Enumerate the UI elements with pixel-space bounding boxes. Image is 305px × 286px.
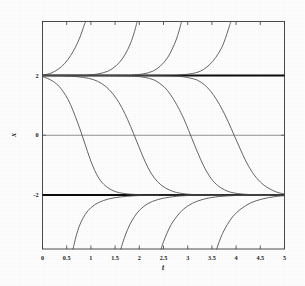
upper-branch-1 xyxy=(45,22,86,75)
upper-branch-4 xyxy=(178,22,231,76)
x-tick-label: 4.5 xyxy=(256,254,264,261)
x-tick-label: 1.5 xyxy=(111,254,119,261)
x-tick-label: 3 xyxy=(186,254,189,261)
lower-branch-3 xyxy=(161,195,270,249)
upper-branch-3 xyxy=(132,22,182,76)
y-axis-title: x xyxy=(9,133,18,138)
x-tick-label: 4 xyxy=(235,254,238,261)
x-axis-title: t xyxy=(162,263,165,272)
lower-branch-1 xyxy=(73,195,159,249)
x-tick-label: 1 xyxy=(89,254,92,261)
descending-sigmoid-1 xyxy=(43,77,285,196)
x-tick-label: 2 xyxy=(138,254,141,261)
lower-branch-4 xyxy=(217,196,285,249)
y-tick-label: 0 xyxy=(35,131,38,138)
x-tick-label: 0.5 xyxy=(63,254,71,261)
x-tick-label: 5 xyxy=(283,254,286,261)
plot-svg: 00.511.522.533.544.55 20-2 t x xyxy=(0,0,305,286)
y-tick-label: -2 xyxy=(33,191,38,198)
descending-sigmoid-4 xyxy=(43,75,285,194)
x-tick-label: 0 xyxy=(41,254,44,261)
x-tick-label: 3.5 xyxy=(208,254,216,261)
lower-branch-2 xyxy=(121,195,222,249)
y-tick-label: 2 xyxy=(35,72,38,79)
reference-lines xyxy=(43,75,285,195)
y-tick-labels: 20-2 xyxy=(33,72,38,199)
figure-container: 00.511.522.533.544.55 20-2 t x xyxy=(0,0,305,286)
x-tick-labels: 00.511.522.533.544.55 xyxy=(41,254,286,261)
upper-branch-2 xyxy=(88,22,137,76)
x-tick-label: 2.5 xyxy=(160,254,168,261)
